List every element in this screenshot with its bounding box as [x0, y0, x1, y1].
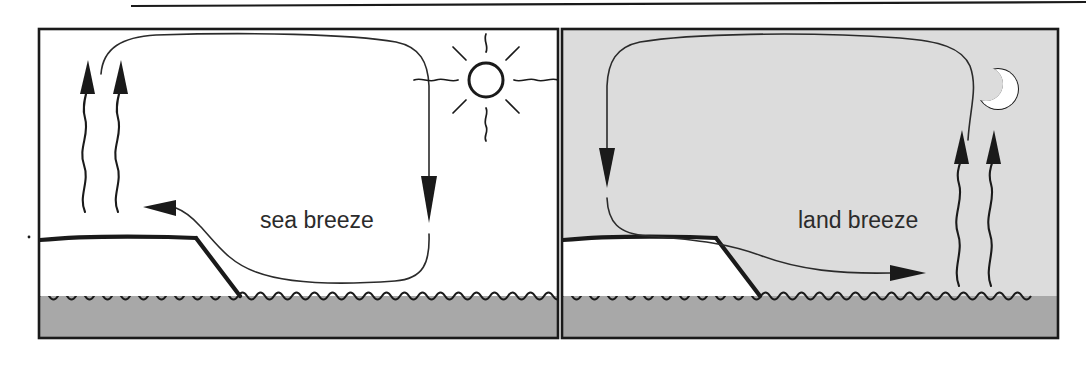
day-panel: sea breeze — [39, 29, 562, 338]
sea-breeze-land-breeze-figure: sea breeze — [0, 0, 1086, 366]
day-panel-caption: sea breeze — [260, 207, 374, 233]
margin-ink-mark — [28, 236, 31, 239]
day-water — [40, 296, 557, 337]
moon-icon — [976, 67, 1021, 112]
night-water — [563, 296, 1057, 337]
night-panel-caption: land breeze — [798, 207, 918, 233]
top-rule — [131, 2, 1086, 6]
night-panel: land breeze — [562, 29, 1058, 338]
diagram-canvas: sea breeze — [0, 0, 1086, 366]
